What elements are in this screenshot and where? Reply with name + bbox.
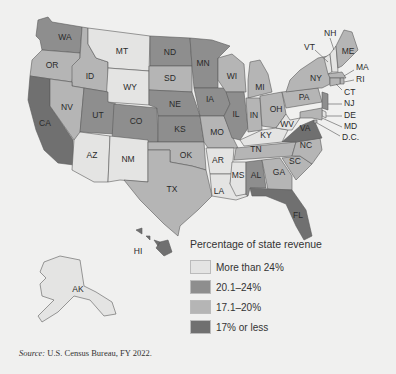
legend-label: 17% or less [216, 322, 268, 333]
legend-swatch [190, 320, 211, 334]
source-text: U.S. Census Bureau, FY 2022. [45, 348, 152, 358]
state-label-sd: SD [164, 73, 176, 83]
state-label-or: OR [46, 60, 59, 70]
source-prefix: Source: [19, 348, 45, 358]
state-label-fl: FL [293, 210, 303, 220]
state-mi [248, 60, 272, 98]
state-label-mi: MI [255, 82, 264, 92]
leader-line [344, 70, 354, 76]
state-label-nj: NJ [344, 98, 354, 108]
state-label-ut: UT [92, 110, 103, 120]
leader-line [330, 38, 334, 50]
state-label-id: ID [86, 71, 95, 81]
legend-swatch [190, 260, 211, 274]
state-label-oh: OH [270, 104, 283, 114]
state-label-nd: ND [164, 47, 176, 57]
leader-line [336, 84, 342, 90]
state-label-ak: AK [72, 284, 84, 294]
state-label-tx: TX [167, 184, 178, 194]
state-label-ky: KY [260, 130, 272, 140]
state-label-vt: VT [304, 42, 315, 52]
leader-line [344, 80, 354, 82]
state-label-nh: NH [324, 28, 336, 38]
state-label-mn: MN [196, 58, 209, 68]
state-label-mt: MT [116, 46, 128, 56]
leader-line [322, 118, 342, 127]
state-label-ok: OK [180, 150, 193, 160]
state-label-tn: TN [250, 144, 261, 154]
state-label-al: AL [251, 170, 262, 180]
state-label-wy: WY [123, 82, 137, 92]
state-label-ga: GA [273, 167, 286, 177]
state-label-ar: AR [212, 155, 224, 165]
legend-item-le17: 17% or less [190, 317, 322, 337]
state-label-il: IL [232, 109, 239, 119]
state-label-de: DE [344, 110, 356, 120]
legend-title: Percentage of state revenue [190, 238, 322, 250]
state-label-ma: MA [356, 62, 369, 72]
state-nj [322, 92, 328, 110]
state-label-pa: PA [299, 92, 310, 102]
legend: Percentage of state revenue More than 24… [190, 238, 322, 337]
legend-label: 17.1–20% [216, 302, 261, 313]
state-label-ny: NY [310, 73, 322, 83]
legend-item-20to24: 20.1–24% [190, 277, 322, 297]
state-label-nv: NV [61, 102, 73, 112]
state-label-ne: NE [169, 99, 181, 109]
state-md [300, 108, 322, 120]
source-note: Source: U.S. Census Bureau, FY 2022. [19, 348, 152, 358]
state-label-me: ME [342, 46, 355, 56]
state-label-ca: CA [39, 118, 51, 128]
state-label-az: AZ [87, 150, 98, 160]
state-label-md: MD [344, 121, 357, 131]
state-label-wa: WA [58, 32, 72, 42]
state-label-nm: NM [121, 154, 134, 164]
legend-swatch [190, 300, 211, 314]
state-label-ct: CT [344, 87, 355, 97]
state-de [322, 110, 326, 118]
legend-item-17to20: 17.1–20% [190, 297, 322, 317]
state-label-ri: RI [356, 74, 365, 84]
state-label-ms: MS [232, 170, 245, 180]
state-label-co: CO [130, 116, 143, 126]
state-label-hi: HI [134, 246, 143, 256]
state-ri [340, 78, 344, 84]
state-label-nc: NC [300, 140, 312, 150]
legend-label: 20.1–24% [216, 282, 261, 293]
state-label-ia: IA [206, 94, 214, 104]
state-label-sc: SC [289, 156, 301, 166]
state-label-mo: MO [210, 127, 224, 137]
legend-swatch [190, 280, 211, 294]
state-ct [330, 78, 340, 86]
legend-label: More than 24% [216, 262, 284, 273]
state-label-dc.: D.C. [342, 132, 359, 142]
state-dc. [314, 120, 317, 123]
state-label-ks: KS [174, 124, 186, 134]
state-label-la: LA [214, 186, 225, 196]
state-label-in: IN [250, 110, 259, 120]
state-ny [286, 56, 330, 92]
state-label-wv: WV [280, 119, 294, 129]
legend-item-gt24: More than 24% [190, 257, 322, 277]
state-label-va: VA [300, 123, 311, 133]
state-label-wi: WI [227, 71, 237, 81]
